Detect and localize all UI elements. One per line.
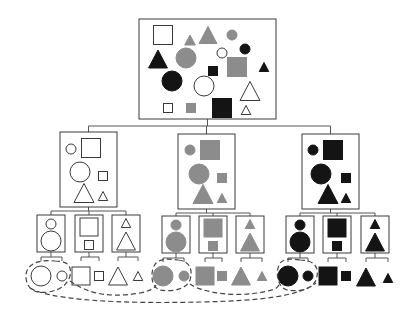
white-circle-icon xyxy=(217,48,227,58)
gray-triangle-icon xyxy=(257,272,266,281)
black-circle-icon xyxy=(295,220,305,230)
white-square-icon xyxy=(82,139,101,158)
white-circle-icon xyxy=(31,266,51,286)
black-square-icon xyxy=(333,242,342,251)
gray-square-icon xyxy=(218,272,227,281)
gray-square-icon xyxy=(218,174,227,183)
gray-circle-icon xyxy=(185,145,195,155)
gray-square-icon xyxy=(201,141,220,160)
white-triangle-icon xyxy=(109,267,128,285)
white-circle-icon xyxy=(46,219,56,229)
black-circle-icon xyxy=(278,266,298,286)
decomposition-diagram xyxy=(0,0,415,324)
gray-circle-icon xyxy=(179,271,189,281)
white-square-icon xyxy=(99,172,108,181)
black-circle-icon xyxy=(240,44,250,54)
black-circle-icon xyxy=(308,145,318,155)
white-circle-icon xyxy=(70,162,90,182)
black-circle-icon xyxy=(290,232,310,252)
white-circle-icon xyxy=(66,144,76,154)
white-circle-icon xyxy=(41,231,61,251)
white-square-icon xyxy=(164,104,173,113)
black-circle-icon xyxy=(162,71,182,91)
white-square-icon xyxy=(95,272,104,281)
black-triangle-icon xyxy=(357,268,376,286)
white-square-icon xyxy=(85,241,94,250)
black-circle-icon xyxy=(311,164,331,184)
gray-square-icon xyxy=(187,104,196,113)
white-circle-icon xyxy=(57,271,67,281)
gray-square-icon xyxy=(209,242,218,251)
white-square-icon xyxy=(154,26,173,45)
white-square-icon xyxy=(72,267,90,285)
gray-circle-icon xyxy=(176,48,196,68)
outer-circles-link xyxy=(30,283,316,302)
gray-square-icon xyxy=(196,267,214,285)
black-square-icon xyxy=(319,267,337,285)
black-square-icon xyxy=(328,219,346,237)
gray-triangle-icon xyxy=(232,267,251,285)
gray-square-icon xyxy=(204,219,222,237)
black-square-icon xyxy=(342,272,351,281)
white-circle-icon xyxy=(194,76,214,96)
gray-circle-icon xyxy=(171,220,181,230)
gray-circle-icon xyxy=(189,164,209,184)
black-square-icon xyxy=(209,67,218,76)
black-square-icon xyxy=(324,141,343,160)
white-triangle-icon xyxy=(133,272,142,281)
black-square-icon xyxy=(213,99,232,118)
gray-square-icon xyxy=(228,58,247,77)
gray-circle-icon xyxy=(166,232,186,252)
black-triangle-icon xyxy=(383,274,392,283)
gray-circle-icon xyxy=(153,266,173,286)
diagram-canvas xyxy=(0,0,415,324)
black-circle-icon xyxy=(303,271,313,281)
black-square-icon xyxy=(342,174,351,183)
gray-circle-icon xyxy=(227,30,237,40)
white-square-icon xyxy=(80,218,98,236)
